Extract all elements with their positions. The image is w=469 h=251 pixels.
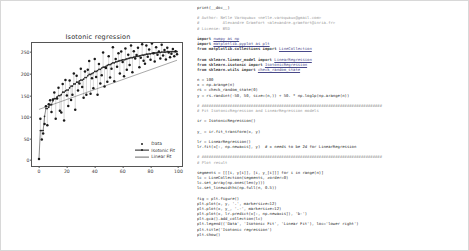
code-symbol-link[interactable]: LineCollection <box>279 46 312 51</box>
x-axis-tick-label: 60 <box>120 169 126 174</box>
legend-marker-dot-icon <box>135 141 149 147</box>
x-axis-tick-label: 20 <box>64 169 70 174</box>
y-axis-tick-label: 250 <box>21 50 30 55</box>
x-axis-tick-label: 80 <box>148 169 154 174</box>
legend-marker-dot-line-icon <box>135 147 149 153</box>
x-axis-tick-mark <box>39 166 40 168</box>
y-axis-tick-mark <box>30 74 32 75</box>
legend-item-label: Isotonic Fit <box>151 148 175 153</box>
chart-title: Isotonic regression <box>5 33 191 41</box>
figure-pane: Isotonic regression DataIsotonic FitLine… <box>5 5 191 248</box>
x-axis-tick-label: 100 <box>174 169 183 174</box>
code-keyword: from matplotlib.collections import <box>197 46 279 51</box>
x-axis-tick-label: 40 <box>92 169 98 174</box>
y-axis-tick-mark <box>30 117 32 118</box>
legend-item-label: Data <box>151 141 161 146</box>
legend-item-label: Linear Fit <box>151 154 171 159</box>
y-axis-tick-label: 100 <box>21 115 30 120</box>
y-axis-tick-mark <box>30 138 32 139</box>
x-axis-tick-mark <box>122 166 123 168</box>
code-symbol-link[interactable]: check_random_state <box>258 67 300 72</box>
legend-marker-line-icon <box>135 154 149 160</box>
x-axis-tick-mark <box>150 166 151 168</box>
chart-plot-area: DataIsotonic FitLinear Fit 0501001502002… <box>31 42 183 167</box>
linear-fit-line <box>39 60 177 109</box>
source-code[interactable]: print(__doc__) # Author: Nelle Varoquaux… <box>197 5 465 237</box>
y-axis-tick-mark <box>30 95 32 96</box>
y-axis-tick-label: 200 <box>21 72 30 77</box>
legend-item: Isotonic Fit <box>135 147 175 154</box>
x-axis-tick-mark <box>67 166 68 168</box>
legend-item: Linear Fit <box>135 154 175 161</box>
x-axis-tick-mark <box>94 166 95 168</box>
code-pane[interactable]: print(__doc__) # Author: Nelle Varoquaux… <box>197 5 465 248</box>
y-axis-tick-label: 150 <box>21 93 30 98</box>
code-keyword: from sklearn.utils import <box>197 67 258 72</box>
page-root: Isotonic regression DataIsotonic FitLine… <box>0 0 469 251</box>
y-axis-tick-mark <box>30 52 32 53</box>
code-line: plt.show() <box>197 232 465 237</box>
chart-legend: DataIsotonic FitLinear Fit <box>132 139 178 163</box>
x-axis-tick-label: 0 <box>38 169 41 174</box>
x-axis-tick-mark <box>178 166 179 168</box>
y-axis-tick-mark <box>30 160 32 161</box>
y-axis-tick-label: 50 <box>24 136 30 141</box>
